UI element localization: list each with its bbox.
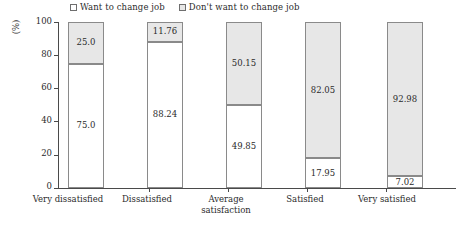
y-tick-label-60: 60 [28, 82, 52, 92]
y-tick-40 [54, 121, 59, 122]
bar-segment-want-to-change-job: 7.02 [387, 176, 423, 188]
bar-segment-want-to-change-job: 49.85 [226, 105, 262, 188]
bar-segment-want-to-change-job: 17.95 [305, 158, 341, 188]
y-tick-0 [54, 188, 59, 189]
x-category-label-dissatisfied: Dissatisfied [104, 194, 190, 205]
bar-segment-dont-want-to-change-job: 25.0 [68, 22, 104, 64]
legend-item-want-to-change-job: Want to change job [70, 2, 165, 12]
chart-legend: Want to change job Don't want to change … [70, 2, 299, 12]
bar-value-label: 75.0 [77, 120, 96, 130]
x-category-label-satisfied: Satisfied [262, 194, 348, 205]
y-tick-60 [54, 88, 59, 89]
bar-very-dissatisfied: 75.0 25.0 [68, 22, 104, 188]
bar-dissatisfied: 88.24 11.76 [147, 22, 183, 188]
legend-item-dont-want-to-change-job: Don't want to change job [179, 2, 300, 12]
x-tick-3 [307, 188, 308, 192]
y-tick-80 [54, 55, 59, 56]
bar-satisfied: 17.95 82.05 [305, 22, 341, 188]
bar-segment-want-to-change-job: 75.0 [68, 64, 104, 189]
x-axis-line [58, 188, 456, 189]
bar-average-satisfaction: 49.85 50.15 [226, 22, 262, 188]
y-tick-20 [54, 155, 59, 156]
bar-value-label: 11.76 [153, 26, 177, 36]
x-category-label-very-dissatisfied: Very dissatisfied [25, 194, 111, 205]
y-tick-label-100: 100 [28, 16, 52, 26]
bar-segment-dont-want-to-change-job: 92.98 [387, 22, 423, 176]
legend-swatch-white-icon [70, 4, 77, 11]
x-category-line1: Very satisfied [344, 194, 430, 205]
x-category-line1: Satisfied [262, 194, 348, 205]
y-tick-label-40: 40 [28, 115, 52, 125]
plot-area: 75.0 25.0 88.24 11.76 49.85 50.15 [58, 22, 456, 188]
y-tick-label-0: 0 [28, 181, 52, 191]
x-category-label-very-satisfied: Very satisfied [344, 194, 430, 205]
x-category-line2: satisfaction [183, 205, 269, 216]
y-axis-unit-label: (%) [11, 7, 21, 47]
y-tick-100 [54, 22, 59, 23]
bar-very-satisfied: 7.02 92.98 [387, 22, 423, 188]
bar-value-label: 49.85 [232, 141, 256, 151]
legend-label-want-to-change-job: Want to change job [80, 2, 165, 12]
y-axis-line [58, 22, 59, 188]
bar-value-label: 25.0 [77, 37, 96, 47]
legend-label-dont-want-to-change-job: Don't want to change job [189, 2, 300, 12]
stacked-bar-chart: Want to change job Don't want to change … [0, 0, 457, 225]
bar-value-label: 50.15 [232, 58, 256, 68]
bar-value-label: 7.02 [396, 177, 415, 187]
bar-segment-dont-want-to-change-job: 82.05 [305, 22, 341, 158]
bar-value-label: 88.24 [153, 109, 177, 119]
x-category-line1: Very dissatisfied [25, 194, 111, 205]
bar-value-label: 17.95 [311, 168, 335, 178]
bar-segment-dont-want-to-change-job: 50.15 [226, 22, 262, 105]
bar-value-label: 92.98 [393, 94, 417, 104]
x-tick-1 [149, 188, 150, 192]
x-tick-4 [386, 188, 387, 192]
x-category-line1: Average [183, 194, 269, 205]
x-category-line1: Dissatisfied [104, 194, 190, 205]
x-tick-2 [228, 188, 229, 192]
bar-segment-want-to-change-job: 88.24 [147, 42, 183, 188]
x-category-label-average-satisfaction: Average satisfaction [183, 194, 269, 215]
y-tick-label-20: 20 [28, 148, 52, 158]
bar-segment-dont-want-to-change-job: 11.76 [147, 22, 183, 42]
bar-value-label: 82.05 [311, 85, 335, 95]
legend-swatch-gray-icon [179, 4, 186, 11]
y-tick-label-80: 80 [28, 49, 52, 59]
